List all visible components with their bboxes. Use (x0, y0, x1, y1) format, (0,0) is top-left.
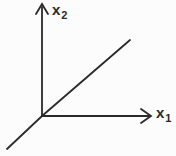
x-axis-label-base: x (156, 104, 165, 121)
diagonal-line (7, 40, 130, 149)
axes-diagram (0, 0, 176, 156)
y-axis-label: x2 (52, 2, 68, 17)
figure-canvas: x2 x1 (0, 0, 176, 156)
y-axis-label-base: x (52, 1, 61, 18)
x-axis-label: x1 (156, 105, 172, 120)
x-axis-label-subscript: 1 (165, 112, 172, 124)
y-axis-label-subscript: 2 (61, 9, 68, 21)
